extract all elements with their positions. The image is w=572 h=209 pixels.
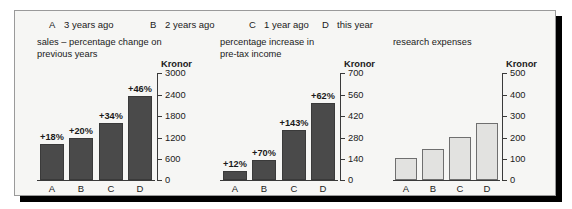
legend-item-d: Dthis year (322, 19, 373, 31)
bar-value-label-b: +70% (242, 148, 286, 158)
x-tick-label-d: D (311, 183, 335, 194)
y-tick-label: 400 (510, 91, 526, 100)
legend-key-c: C (249, 19, 264, 31)
bar-a (40, 144, 64, 180)
figure-panel: A3 years ago B2 years ago C1 year ago Dt… (14, 10, 556, 196)
legend-key-d: D (322, 19, 337, 31)
y-axis-spine (502, 73, 503, 181)
chart-sales-percentage-change: sales – percentage change on previous ye… (37, 37, 217, 187)
bar-b (69, 138, 93, 180)
y-tick-mark (157, 180, 162, 181)
y-tick-label: 140 (348, 155, 364, 164)
bar-c (449, 137, 471, 180)
plot-area: +18%A+20%B+34%C+46%D (37, 73, 155, 181)
legend-item-a: A3 years ago (49, 19, 114, 31)
x-tick-label-a: A (223, 183, 247, 194)
y-tick-mark (502, 159, 507, 160)
legend: A3 years ago B2 years ago C1 year ago Dt… (15, 19, 555, 35)
y-tick-mark (157, 116, 162, 117)
y-axis-spine (157, 73, 158, 181)
y-tick-mark (340, 180, 345, 181)
y-tick-label: 0 (165, 176, 170, 185)
y-tick-label: 560 (348, 91, 364, 100)
bar-c (282, 130, 306, 180)
x-axis-baseline (220, 180, 338, 181)
x-tick-label-d: D (475, 183, 499, 194)
x-tick-label-c: C (448, 183, 472, 194)
bar-d (476, 123, 498, 180)
y-tick-label: 420 (348, 112, 364, 121)
y-tick-label: 500 (510, 69, 526, 78)
bar-b (252, 160, 276, 180)
legend-label-a: 3 years ago (64, 19, 114, 31)
y-tick-label: 600 (165, 155, 181, 164)
bar-value-label-d: +46% (118, 84, 162, 94)
legend-key-a: A (49, 19, 64, 31)
bar-d (128, 96, 152, 180)
y-tick-label: 0 (348, 176, 353, 185)
x-axis-baseline (37, 180, 155, 181)
legend-item-b: B2 years ago (150, 19, 215, 31)
x-tick-label-c: C (282, 183, 306, 194)
y-tick-mark (502, 180, 507, 181)
plot-area: ABCD (393, 73, 500, 181)
legend-key-b: B (150, 19, 165, 31)
y-tick-mark (340, 116, 345, 117)
x-tick-label-a: A (40, 183, 64, 194)
bar-value-label-b: +20% (59, 126, 103, 136)
chart-research-expenses: research expenses Kronor ABCD 0100200300… (393, 37, 553, 187)
y-tick-label: 700 (348, 69, 364, 78)
x-tick-label-d: D (128, 183, 152, 194)
bar-value-label-a: +12% (213, 159, 257, 169)
y-tick-label: 100 (510, 155, 526, 164)
bar-a (223, 171, 247, 180)
x-tick-label-b: B (252, 183, 276, 194)
bar-value-label-d: +62% (301, 91, 345, 101)
legend-label-d: this year (337, 19, 373, 31)
y-tick-mark (340, 159, 345, 160)
chart-pretax-income-increase: percentage increase in pre-tax income Kr… (220, 37, 400, 187)
y-tick-label: 2400 (165, 91, 186, 100)
bar-a (395, 158, 417, 180)
x-tick-label-b: B (421, 183, 445, 194)
legend-label-c: 1 year ago (264, 19, 309, 31)
y-tick-mark (502, 73, 507, 74)
y-tick-label: 0 (510, 176, 515, 185)
plot-area: +12%A+70%B+143%C+62%D (220, 73, 338, 181)
legend-item-c: C1 year ago (249, 19, 309, 31)
y-tick-label: 1800 (165, 112, 186, 121)
y-tick-label: 200 (510, 134, 526, 143)
figure-root: A3 years ago B2 years ago C1 year ago Dt… (0, 0, 572, 209)
y-tick-mark (157, 159, 162, 160)
bar-value-label-c: +34% (89, 111, 133, 121)
y-tick-label: 3000 (165, 69, 186, 78)
y-tick-mark (157, 138, 162, 139)
y-axis-spine (340, 73, 341, 181)
x-axis-baseline (393, 180, 500, 181)
y-tick-mark (502, 138, 507, 139)
bar-c (99, 123, 123, 180)
bar-value-label-c: +143% (272, 118, 316, 128)
y-tick-mark (157, 73, 162, 74)
chart-title: sales – percentage change on previous ye… (37, 37, 162, 60)
chart-title: research expenses (393, 37, 472, 49)
bar-b (422, 149, 444, 180)
bar-d (311, 103, 335, 180)
y-tick-label: 280 (348, 134, 364, 143)
y-tick-mark (502, 95, 507, 96)
x-tick-label-a: A (394, 183, 418, 194)
chart-title: percentage increase in pre-tax income (220, 37, 314, 60)
y-tick-mark (502, 116, 507, 117)
y-tick-mark (340, 138, 345, 139)
y-tick-label: 1200 (165, 134, 186, 143)
y-tick-mark (340, 95, 345, 96)
y-tick-label: 300 (510, 112, 526, 121)
y-tick-mark (157, 95, 162, 96)
y-tick-mark (340, 73, 345, 74)
x-tick-label-b: B (69, 183, 93, 194)
x-tick-label-c: C (99, 183, 123, 194)
legend-label-b: 2 years ago (165, 19, 215, 31)
